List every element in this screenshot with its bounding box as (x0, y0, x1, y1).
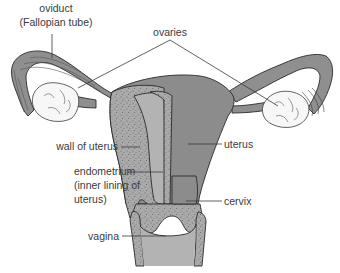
label-ovaries: ovaries (153, 26, 187, 38)
label-oviduct-alt: (Fallopian tube) (20, 16, 93, 28)
right-ovary (262, 91, 309, 127)
left-ovary (32, 83, 78, 122)
label-endometrium-desc2: uterus) (74, 193, 107, 205)
label-wall-of-uterus: wall of uterus (55, 140, 118, 152)
label-cervix: cervix (224, 195, 252, 207)
label-oviduct: oviduct (39, 2, 72, 14)
label-endometrium-desc1: (inner lining of (74, 179, 140, 191)
reproductive-system-diagram: oviduct (Fallopian tube) ovaries wall of… (0, 0, 340, 273)
label-endometrium: endometrium (74, 165, 136, 177)
label-uterus: uterus (224, 138, 253, 150)
label-vagina: vagina (88, 230, 119, 242)
uterus-wall-section (110, 85, 172, 218)
